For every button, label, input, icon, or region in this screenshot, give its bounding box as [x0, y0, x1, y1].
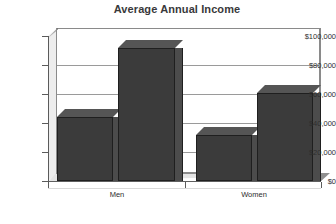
y-tick-mark-20000	[42, 152, 49, 153]
y-tick-mark-80000	[42, 65, 49, 66]
y-tick-mark-60000	[42, 94, 49, 95]
x-tick-label-men: Men	[110, 190, 125, 199]
x-axis-line	[48, 188, 321, 189]
y-tick-label-100000: $100,000	[292, 32, 336, 41]
x-tick-mark-start	[48, 182, 49, 188]
bar-front-face	[196, 135, 252, 181]
y-tick-label-40000: $40,000	[292, 119, 336, 128]
bar-men-series2	[118, 36, 175, 181]
bar-top-face	[57, 109, 121, 117]
x-tick-mark-end	[321, 182, 322, 188]
x-tick-mark-middle	[185, 182, 186, 188]
bar-side-face	[313, 93, 321, 181]
bar-men-series1	[57, 36, 113, 181]
chart-container: Average Annual Income	[0, 0, 336, 224]
y-tick-label-0: $0	[292, 177, 336, 186]
bar-top-face	[196, 127, 260, 135]
bar-front-face	[257, 93, 313, 181]
y-tick-mark-100000	[42, 36, 49, 37]
y-tick-mark-40000	[42, 123, 49, 124]
y-tick-label-60000: $60,000	[292, 90, 336, 99]
bar-women-series2	[257, 36, 313, 181]
y-tick-label-20000: $20,000	[292, 148, 336, 157]
bar-side-face	[175, 48, 183, 181]
bar-top-face	[118, 40, 183, 48]
bar-front-face	[57, 117, 113, 181]
y-axis-line	[48, 36, 49, 182]
plot-area: $100,000 $80,000 $60,000 $40,000 $20,000…	[0, 0, 336, 224]
y-tick-label-80000: $80,000	[292, 61, 336, 70]
bar-front-face	[118, 48, 175, 181]
bar-women-series1	[196, 36, 252, 181]
x-tick-label-women: Women	[241, 190, 267, 199]
